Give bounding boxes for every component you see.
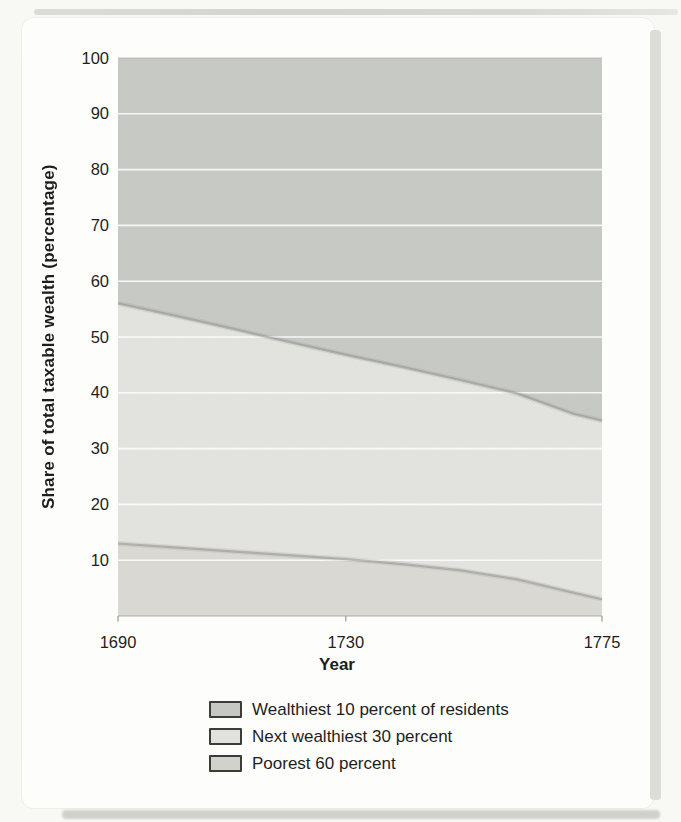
legend-swatch-next-wealthiest-30 <box>209 728 242 745</box>
legend-label-poorest-60: Poorest 60 percent <box>252 754 396 774</box>
x-tick-label-1730: 1730 <box>327 633 364 651</box>
page-bottom-shadow <box>62 810 660 819</box>
x-axis-title: Year <box>257 655 417 677</box>
figure-card: 169017301775102030405060708090100 Share … <box>22 18 654 808</box>
y-tick-label-40: 40 <box>91 383 109 401</box>
y-tick-label-10: 10 <box>91 551 109 569</box>
y-axis-title: Share of total taxable wealth (percentag… <box>28 58 70 616</box>
legend-item-poorest-60: Poorest 60 percent <box>209 754 509 773</box>
y-tick-label-60: 60 <box>91 272 109 290</box>
legend: Wealthiest 10 percent of residents Next … <box>209 700 509 773</box>
page-top-shadow <box>34 9 678 15</box>
stacked-area-chart: 169017301775102030405060708090100 <box>22 18 654 718</box>
y-tick-label-20: 20 <box>91 495 109 513</box>
y-tick-label-70: 70 <box>91 216 109 234</box>
legend-swatch-wealthiest-10 <box>209 701 242 718</box>
legend-swatch-poorest-60 <box>209 755 242 772</box>
y-tick-label-50: 50 <box>91 328 109 346</box>
y-tick-label-90: 90 <box>91 104 109 122</box>
legend-item-wealthiest-10: Wealthiest 10 percent of residents <box>209 700 509 719</box>
legend-item-next-wealthiest-30: Next wealthiest 30 percent <box>209 727 509 746</box>
y-tick-label-80: 80 <box>91 160 109 178</box>
legend-label-wealthiest-10: Wealthiest 10 percent of residents <box>252 700 509 720</box>
y-tick-label-100: 100 <box>81 49 109 67</box>
legend-label-next-wealthiest-30: Next wealthiest 30 percent <box>252 727 452 747</box>
x-tick-label-1690: 1690 <box>100 633 137 651</box>
x-tick-label-1775: 1775 <box>584 633 621 651</box>
y-tick-label-30: 30 <box>91 439 109 457</box>
page-right-shadow <box>650 30 661 800</box>
